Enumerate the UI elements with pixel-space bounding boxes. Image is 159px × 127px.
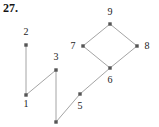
vertex-label-7: 7: [71, 41, 76, 51]
graph-edge: [80, 68, 110, 94]
graph-vertex: [24, 43, 27, 46]
graph-vertex: [108, 22, 111, 25]
graph-vertex: [24, 93, 27, 96]
graph-vertex: [78, 92, 81, 95]
graph-vertex: [135, 44, 138, 47]
graph-vertex: [81, 44, 84, 47]
vertex-label-8: 8: [145, 41, 150, 51]
graph-edge: [26, 70, 56, 95]
figure-container: 27. 12356789: [0, 0, 159, 127]
vertex-label-5: 5: [78, 101, 83, 111]
graph-edge: [83, 46, 110, 68]
graph-edge: [110, 46, 137, 68]
graph-edge: [56, 94, 80, 122]
vertex-label-1: 1: [24, 99, 29, 109]
vertex-label-9: 9: [108, 7, 113, 17]
graph-vertex: [108, 66, 111, 69]
graph-vertex: [54, 68, 57, 71]
vertex-label-2: 2: [24, 27, 29, 37]
graph-edge: [83, 24, 110, 46]
vertex-label-3: 3: [54, 52, 59, 62]
vertex-label-6: 6: [108, 75, 113, 85]
graph-edge: [110, 24, 137, 46]
graph-vertex: [54, 120, 57, 123]
